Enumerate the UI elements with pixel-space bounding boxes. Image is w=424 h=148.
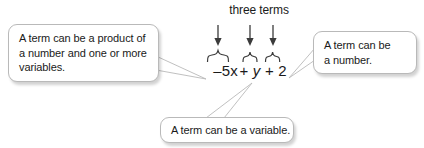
arrow-term-3: [269, 25, 276, 46]
callout-tail-variable: [206, 83, 252, 118]
callout-number-line-1: A term can be: [324, 38, 407, 53]
callout-variable-line-1: A term can be a variable.: [171, 123, 284, 138]
expression-operator-2: +: [265, 62, 274, 79]
callout-number-line-2: a number.: [324, 53, 407, 68]
expression-term-3: 2: [278, 62, 287, 79]
brace-term-1: [208, 51, 229, 63]
algebraic-expression: –5x + y + 2: [204, 62, 296, 79]
callout-term-product: A term can be a product of a number and …: [8, 24, 159, 82]
arrow-term-1: [214, 25, 221, 46]
diagram-canvas: three terms: [0, 0, 424, 148]
callout-term-number: A term can be a number.: [313, 31, 417, 74]
expression-term-1: –5x: [213, 62, 238, 79]
brace-term-3: [266, 52, 280, 62]
callout-tail-product: [156, 56, 206, 79]
arrow-term-2: [246, 25, 253, 46]
brace-term-2: [243, 52, 257, 62]
expression-operator-1: +: [239, 62, 248, 79]
callout-term-variable: A term can be a variable.: [160, 117, 294, 143]
callout-product-line-2: a number and one or more: [19, 46, 149, 61]
expression-term-2: y: [253, 62, 261, 79]
callout-product-line-1: A term can be a product of: [19, 31, 149, 46]
callout-product-line-3: variables.: [19, 60, 149, 75]
